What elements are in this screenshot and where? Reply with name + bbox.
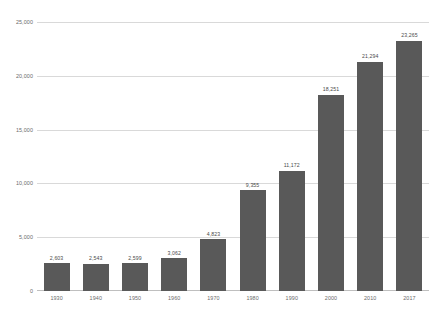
x-axis-category-label: 2000 — [325, 295, 337, 301]
x-axis-category-label: 1950 — [129, 295, 141, 301]
bar-chart: 05,00010,00015,00020,00025,000 2,6032,54… — [0, 0, 435, 331]
y-axis-tick-label: 15,000 — [16, 127, 33, 133]
x-axis-category-label: 1990 — [286, 295, 298, 301]
y-axis-tick-label: 5,000 — [19, 234, 33, 240]
x-axis-category-label: 1930 — [50, 295, 62, 301]
x-axis-category-label: 1960 — [168, 295, 180, 301]
x-axis-category-label: 1970 — [207, 295, 219, 301]
x-axis-category-label: 2017 — [403, 295, 415, 301]
y-axis-tick-labels: 05,00010,00015,00020,00025,000 — [0, 22, 33, 291]
y-axis-tick-label: 25,000 — [16, 19, 33, 25]
x-axis-category-label: 1980 — [246, 295, 258, 301]
x-axis-category-labels: 1930194019501960197019801990200020102017 — [37, 0, 429, 331]
y-axis-tick-label: 20,000 — [16, 73, 33, 79]
y-axis-tick-label: 10,000 — [16, 180, 33, 186]
x-axis-category-label: 1940 — [90, 295, 102, 301]
x-axis-category-label: 2010 — [364, 295, 376, 301]
y-axis-tick-label: 0 — [30, 288, 33, 294]
